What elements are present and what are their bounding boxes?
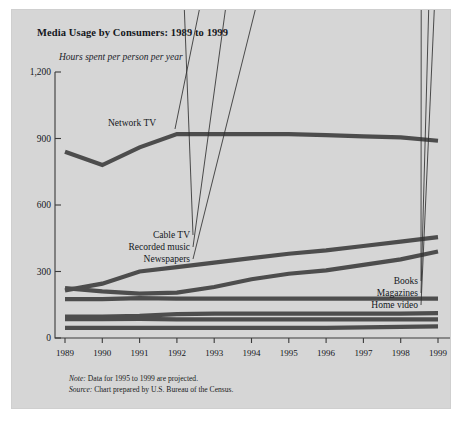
- y-tick-label: 0: [46, 333, 51, 343]
- series-lines: [65, 134, 438, 328]
- x-tick-label: 1996: [317, 348, 336, 358]
- footnote-note: Note: Data for 1995 to 1999 are projecte…: [69, 374, 233, 385]
- footnote-source-text: Chart prepared by U.S. Bureau of the Cen…: [92, 385, 233, 394]
- x-tick-label: 1989: [56, 348, 75, 358]
- footnote-source: Source: Chart prepared by U.S. Bureau of…: [69, 385, 233, 396]
- series-line-network-tv: [65, 134, 438, 165]
- line-chart-plot: 03006009001,200 198919901991199219931994…: [12, 10, 452, 410]
- series-label-recorded-music: Recorded music: [129, 242, 190, 252]
- y-axis-ticks: 03006009001,200: [30, 67, 61, 343]
- series-label-newspapers: Newspapers: [144, 254, 191, 264]
- series-labels: Network TVCable TVRecorded musicNewspape…: [108, 118, 418, 310]
- footnotes: Note: Data for 1995 to 1999 are projecte…: [69, 374, 233, 396]
- footnote-note-key: Note:: [69, 374, 86, 383]
- series-label-magazines: Magazines: [377, 288, 418, 298]
- series-line-books: [65, 313, 438, 317]
- x-tick-label: 1991: [131, 348, 149, 358]
- series-label-network-tv: Network TV: [108, 118, 156, 128]
- footnote-source-key: Source:: [69, 385, 92, 394]
- y-tick-label: 900: [37, 134, 52, 144]
- x-axis-ticks: 1989199019911992199319941995199619971998…: [56, 338, 448, 358]
- x-tick-label: 1993: [205, 348, 224, 358]
- x-tick-label: 1997: [354, 348, 373, 358]
- x-tick-label: 1992: [168, 348, 186, 358]
- y-tick-label: 600: [37, 200, 52, 210]
- figure-panel: Media Usage by Consumers: 1989 to 1999 H…: [11, 9, 451, 409]
- series-label-cable-tv: Cable TV: [153, 230, 190, 240]
- y-tick-label: 300: [37, 267, 52, 277]
- x-tick-label: 1995: [280, 348, 299, 358]
- x-tick-label: 1998: [392, 348, 411, 358]
- footnote-note-text: Data for 1995 to 1999 are projected.: [86, 374, 198, 383]
- x-tick-label: 1999: [429, 348, 448, 358]
- x-tick-label: 1994: [243, 348, 262, 358]
- series-label-books: Books: [394, 276, 419, 286]
- y-tick-label: 1,200: [30, 67, 52, 77]
- series-line-home-video: [65, 326, 438, 327]
- series-label-home-video: Home video: [371, 300, 418, 310]
- x-tick-label: 1990: [93, 348, 112, 358]
